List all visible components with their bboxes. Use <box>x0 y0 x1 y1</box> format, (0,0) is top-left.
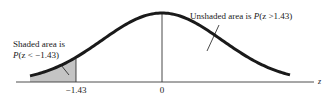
z-axis-label: z <box>317 77 322 86</box>
shaded-expression: (z < −1.43) <box>19 50 59 60</box>
tick-label-neg-1-43: −1.43 <box>66 85 87 95</box>
unshaded-annotation: Unshaded area is P(z >1.43) <box>190 11 292 21</box>
unshaded-prefix: Unshaded area is <box>190 11 254 21</box>
tick-label-zero: 0 <box>160 85 165 95</box>
shaded-annotation-line2: P(z < −1.43) <box>12 50 59 60</box>
unshaded-expression: (z >1.43) <box>259 11 292 21</box>
normal-distribution-diagram: z −1.43 0 Shaded area is P(z < −1.43) Un… <box>0 0 332 100</box>
shaded-annotation-line1: Shaded area is <box>13 39 65 49</box>
